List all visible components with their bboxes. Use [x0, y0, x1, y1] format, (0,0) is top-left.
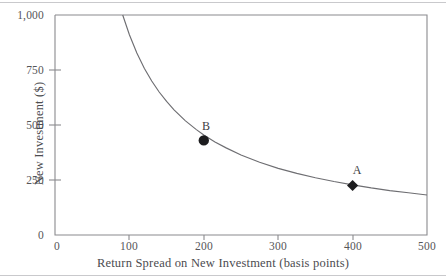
data-point-a-marker [347, 180, 358, 191]
y-axis-inner-ticks [55, 70, 61, 180]
axis-frame [55, 15, 427, 235]
x-tick-label-500: 500 [418, 240, 436, 252]
y-tick-label-1000: 1,000 [0, 9, 44, 21]
data-point-b-label: B [202, 119, 210, 134]
x-tick-label-200: 200 [195, 240, 213, 252]
x-tick-label-400: 400 [344, 240, 362, 252]
x-axis-title: Return Spread on New Investment (basis p… [0, 256, 446, 271]
y-axis-ticks [49, 70, 55, 180]
x-tick-label-300: 300 [269, 240, 287, 252]
x-tick-label-0: 0 [54, 240, 60, 252]
x-axis-ticks [129, 235, 353, 240]
y-tick-label-0: 0 [0, 229, 44, 241]
data-point-b-marker [199, 135, 209, 145]
figure-container: 1,000 750 500 250 0 0 100 200 300 400 50… [0, 0, 446, 279]
x-tick-label-100: 100 [120, 240, 138, 252]
y-axis-title: New Investment ($) [32, 49, 47, 219]
investment-curve [123, 15, 427, 195]
data-point-a-label: A [353, 163, 362, 178]
plot-area [0, 0, 446, 279]
